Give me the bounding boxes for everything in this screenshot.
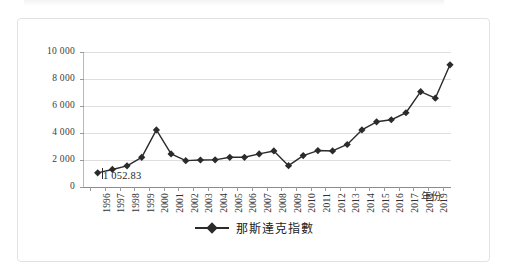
x-axis-tick-label: 2006 [248, 193, 258, 213]
x-axis-tick [384, 187, 385, 191]
series-line [98, 65, 450, 173]
data-point-marker [123, 162, 130, 169]
x-axis-tick-label: 1996 [102, 193, 112, 213]
legend-label: 那斯達克指數 [236, 219, 314, 236]
data-point-marker [432, 95, 439, 102]
data-point-marker [153, 126, 160, 133]
x-axis-tick [164, 187, 165, 191]
x-axis-tick-label: 2014 [366, 193, 376, 213]
data-point-marker [329, 147, 336, 154]
x-axis-tick [413, 187, 414, 191]
x-axis-tick-label: 2009 [293, 193, 303, 213]
x-axis-tick-label: 2007 [263, 193, 273, 213]
x-axis-tick-label: 2012 [337, 193, 347, 213]
x-axis-tick [120, 187, 121, 191]
x-axis-tick-label: 1997 [116, 193, 126, 213]
chart-legend: 那斯達克指數 [0, 219, 509, 236]
y-axis-tick-label: 10 000 [29, 46, 75, 56]
legend-marker-icon [195, 223, 229, 233]
data-point-marker [212, 156, 219, 163]
x-axis-tick-label: 2001 [175, 193, 185, 213]
x-axis-tick-label: 2000 [160, 193, 170, 213]
data-point-marker [226, 154, 233, 161]
x-axis-tick-label: 2004 [219, 193, 229, 213]
x-axis-tick [369, 187, 370, 191]
data-point-marker [256, 150, 263, 157]
x-axis-tick-label: 1998 [131, 193, 141, 213]
data-point-marker [197, 156, 204, 163]
y-axis-tick-label: 6 000 [29, 100, 75, 110]
x-axis-tick-label: 2016 [395, 193, 405, 213]
x-axis-tick-label: 2015 [381, 193, 391, 213]
nasdaq-index-line-chart: 10 0008 0006 0004 0002 0000 199619971998… [0, 0, 509, 279]
data-point-marker [94, 169, 101, 176]
data-point-marker [388, 116, 395, 123]
data-point-marker [138, 154, 145, 161]
y-axis-tick-label: 0 [29, 181, 75, 191]
x-axis-tick [325, 187, 326, 191]
data-point-marker [314, 147, 321, 154]
data-point-marker [241, 154, 248, 161]
y-axis-tick-label: 4 000 [29, 127, 75, 137]
data-point-annotation: 1 052.83 [103, 170, 141, 181]
x-axis-tick [222, 187, 223, 191]
x-axis-tick [399, 187, 400, 191]
data-point-marker [167, 150, 174, 157]
y-axis-tick-label: 8 000 [29, 73, 75, 83]
data-point-marker [182, 157, 189, 164]
x-axis-tick [149, 187, 150, 191]
x-axis-tick [193, 187, 194, 191]
x-axis-tick [105, 187, 106, 191]
x-axis-tick [252, 187, 253, 191]
x-axis-tick-label: 2010 [307, 193, 317, 213]
x-axis-tick-label: 2013 [351, 193, 361, 213]
x-axis-tick [267, 187, 268, 191]
x-axis-tick-label: 2002 [190, 193, 200, 213]
x-axis-tick [340, 187, 341, 191]
x-axis-tick [443, 187, 444, 191]
x-axis-tick-label: 2003 [204, 193, 214, 213]
x-axis-title: 年份 [421, 188, 441, 203]
data-point-marker [373, 118, 380, 125]
x-axis-tick-label: 2005 [234, 193, 244, 213]
series-markers [94, 61, 454, 176]
x-axis-tick [355, 187, 356, 191]
x-axis-tick [237, 187, 238, 191]
x-axis-tick [281, 187, 282, 191]
x-axis-tick [208, 187, 209, 191]
x-axis-tick [296, 187, 297, 191]
x-axis-tick-label: 2011 [322, 193, 332, 212]
x-axis-tick [90, 187, 91, 191]
x-axis-tick [311, 187, 312, 191]
y-axis-tick-label: 2 000 [29, 154, 75, 164]
x-axis-tick-label: 2008 [278, 193, 288, 213]
data-point-marker [446, 61, 453, 68]
x-axis-tick [178, 187, 179, 191]
series-nasdaq-index [83, 52, 450, 187]
x-axis-tick-label: 2017 [410, 193, 420, 213]
x-axis-tick-label: 1999 [146, 193, 156, 213]
x-axis-tick [134, 187, 135, 191]
